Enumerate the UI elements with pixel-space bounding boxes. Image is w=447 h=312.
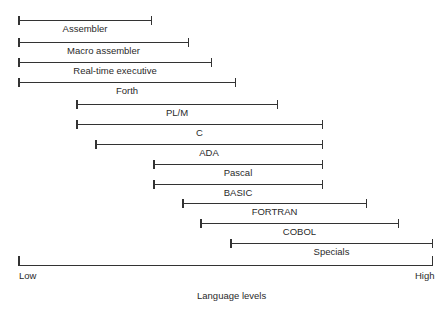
range-label: BASIC <box>224 187 253 198</box>
range-label: Assembler <box>63 23 108 34</box>
axis-high-label: High <box>415 270 435 281</box>
range-bar-fortran <box>183 203 366 204</box>
range-label: PL/M <box>166 107 188 118</box>
range-label: Macro assembler <box>67 45 140 56</box>
range-bar-assembler <box>19 20 151 21</box>
range-bar-pascal <box>154 164 322 165</box>
range-label: Pascal <box>224 167 253 178</box>
range-label: Specials <box>314 246 350 257</box>
range-bar-c <box>77 124 322 125</box>
range-label: Forth <box>116 85 138 96</box>
range-label: COBOL <box>283 226 316 237</box>
range-bar-macro-assembler <box>19 42 188 43</box>
axis-low-label: Low <box>19 270 36 281</box>
range-bar-basic <box>154 184 322 185</box>
range-label: C <box>196 127 203 138</box>
range-label: FORTRAN <box>252 206 298 217</box>
range-bar-real-time-executive <box>19 62 211 63</box>
range-bar-pl-m <box>77 104 277 105</box>
range-bar-cobol <box>201 223 398 224</box>
range-bar-forth <box>19 82 235 83</box>
axis-title: Language levels <box>197 290 266 301</box>
range-label: Real-time executive <box>73 65 156 76</box>
range-label: ADA <box>199 147 219 158</box>
language-level-axis <box>19 265 432 266</box>
range-bar-specials <box>231 243 432 244</box>
range-bar-ada <box>96 144 322 145</box>
